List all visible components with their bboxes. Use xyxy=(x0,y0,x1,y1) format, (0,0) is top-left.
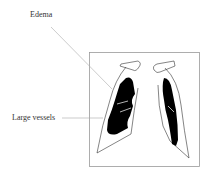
left-lung-edema xyxy=(163,78,178,146)
left-clavicle xyxy=(153,61,175,73)
chest-xray-diagram xyxy=(0,0,212,180)
xray-frame xyxy=(90,53,200,167)
right-lung-edema xyxy=(107,78,135,135)
right-clavicle xyxy=(120,61,140,71)
edema-leader-line xyxy=(51,27,112,89)
